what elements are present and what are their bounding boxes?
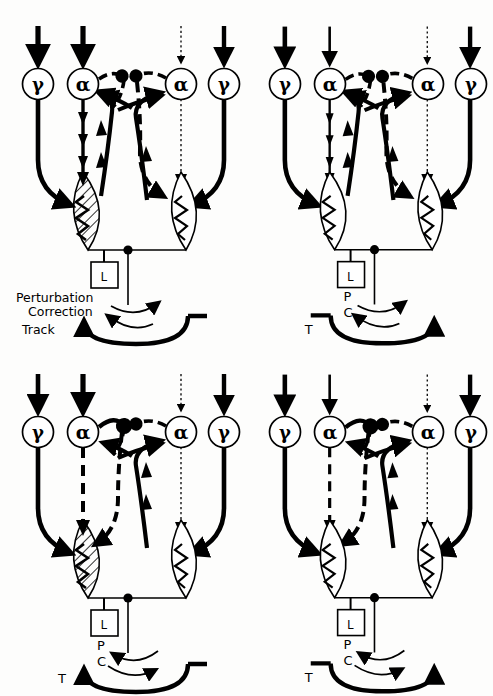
neuron-symbol: α: [323, 421, 338, 443]
neuron-alpha-right[interactable]: α: [413, 69, 444, 100]
figure-canvas: L Perturbation Correction Track: [0, 0, 493, 696]
neuron-symbol: γ: [218, 422, 230, 443]
neuron-symbol: γ: [465, 422, 477, 443]
neuron-alpha-right[interactable]: α: [166, 69, 197, 100]
neuron-symbol: α: [421, 73, 436, 95]
neuron-symbol: α: [323, 73, 338, 95]
neuron-gamma-left[interactable]: γ: [23, 417, 54, 448]
neuron-circles: γααγ: [247, 0, 493, 348]
neuron-symbol: γ: [279, 422, 291, 443]
neuron-circles: γααγ: [0, 348, 247, 696]
neuron-symbol: γ: [218, 74, 230, 95]
neuron-gamma-right[interactable]: γ: [209, 417, 240, 448]
neuron-circles: γααγ: [0, 0, 247, 348]
neuron-gamma-left[interactable]: γ: [270, 417, 301, 448]
neuron-gamma-right[interactable]: γ: [456, 69, 487, 100]
panel-bottom-left-neurons: γααγ: [0, 348, 247, 696]
neuron-symbol: α: [76, 421, 91, 443]
neuron-symbol: γ: [32, 422, 44, 443]
neuron-circles: γααγ: [247, 348, 493, 696]
neuron-symbol: γ: [32, 74, 44, 95]
neuron-symbol: α: [76, 73, 91, 95]
neuron-symbol: γ: [465, 74, 477, 95]
panel-top-left-neurons: γααγ: [0, 0, 247, 348]
panel-top-right-neurons: γααγ: [247, 0, 493, 348]
neuron-gamma-right[interactable]: γ: [456, 417, 487, 448]
neuron-alpha-left[interactable]: α: [68, 69, 99, 100]
neuron-alpha-left[interactable]: α: [315, 417, 346, 448]
neuron-alpha-right[interactable]: α: [166, 417, 197, 448]
neuron-gamma-left[interactable]: γ: [270, 69, 301, 100]
neuron-alpha-left[interactable]: α: [315, 69, 346, 100]
neuron-symbol: α: [174, 73, 189, 95]
neuron-gamma-right[interactable]: γ: [209, 69, 240, 100]
neuron-alpha-left[interactable]: α: [68, 417, 99, 448]
panel-bottom-right-neurons: γααγ: [247, 348, 493, 696]
neuron-symbol: α: [174, 421, 189, 443]
neuron-gamma-left[interactable]: γ: [23, 69, 54, 100]
neuron-symbol: γ: [279, 74, 291, 95]
neuron-symbol: α: [421, 421, 436, 443]
neuron-alpha-right[interactable]: α: [413, 417, 444, 448]
